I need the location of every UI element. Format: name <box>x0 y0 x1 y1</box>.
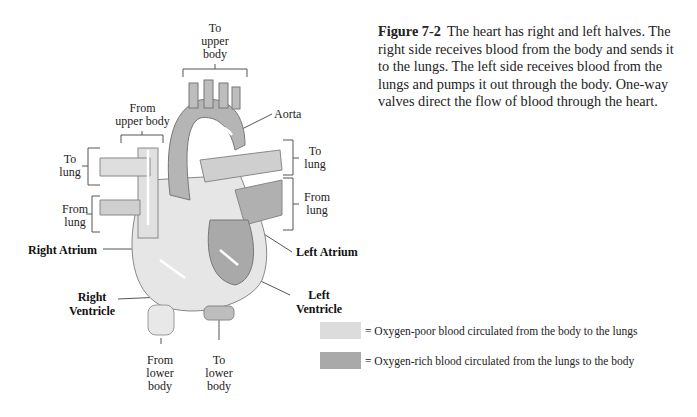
label-from-lung-right: From lung <box>300 191 334 217</box>
label-line: Right <box>62 290 122 304</box>
label-to-upper-body: To upper body <box>195 22 235 61</box>
label-line: lung <box>300 204 334 217</box>
label-left-ventricle: Left Ventricle <box>288 288 350 316</box>
figure-number: Figure 7-2 <box>378 23 441 39</box>
label-aorta: Aorta <box>274 108 301 121</box>
legend-oxygen-poor: = Oxygen-poor blood circulated from the … <box>320 322 638 339</box>
label-line: Ventricle <box>288 302 350 316</box>
label-line: lung <box>58 216 92 229</box>
swatch-oxygen-rich <box>320 352 361 369</box>
label-line: lung <box>300 158 330 171</box>
label-right-ventricle: Right Ventricle <box>62 290 122 318</box>
label-line: Left <box>288 288 350 302</box>
legend-oxygen-rich: = Oxygen-rich blood circulated from the … <box>320 352 634 369</box>
label-to-lung-left: To lung <box>55 153 85 179</box>
legend-text: = Oxygen-rich blood circulated from the … <box>365 355 634 367</box>
label-line: upper body <box>105 115 180 128</box>
label-right-atrium: Right Atrium <box>28 243 97 257</box>
label-line: lung <box>55 166 85 179</box>
label-line: body <box>140 380 180 393</box>
label-to-lung-right: To lung <box>300 145 330 171</box>
figure-caption: Figure 7-2The heart has right and left h… <box>378 23 688 111</box>
label-line: body <box>195 48 235 61</box>
label-from-upper-body: From upper body <box>105 102 180 128</box>
legend-text: = Oxygen-poor blood circulated from the … <box>365 325 638 337</box>
label-line: body <box>199 380 239 393</box>
swatch-oxygen-poor <box>320 322 361 339</box>
label-line: Ventricle <box>62 304 122 318</box>
label-from-lung-left: From lung <box>58 203 92 229</box>
label-to-lower-body: To lower body <box>199 354 239 393</box>
label-from-lower-body: From lower body <box>140 354 180 393</box>
label-left-atrium: Left Atrium <box>296 245 358 259</box>
